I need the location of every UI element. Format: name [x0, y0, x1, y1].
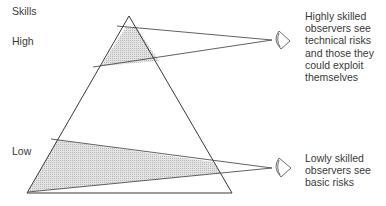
high-observer-description: Highly skilled observers see technical r…	[305, 10, 374, 83]
high-observer-eye-icon	[276, 31, 290, 49]
low-level-label: Low	[12, 145, 31, 157]
high-view-shaded-region	[101, 27, 159, 66]
low-observer-eye-icon	[276, 158, 291, 177]
high-level-label: High	[12, 35, 34, 47]
low-view-shaded-region	[28, 140, 220, 192]
low-observer-description: Lowly skilled observers see basic risks	[305, 152, 371, 189]
skills-axis-label: Skills	[12, 5, 37, 17]
